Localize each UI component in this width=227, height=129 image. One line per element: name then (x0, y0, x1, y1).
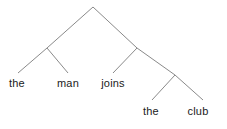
edge-right-phrase-to-lower-right (137, 48, 175, 75)
edge-left-phrase-to-the (18, 48, 47, 73)
leaf-label-the-1: the (9, 77, 25, 89)
leaf-label-joins: joins (101, 77, 125, 89)
leaf-label-man: man (57, 77, 79, 89)
leaf-label-club: club (188, 105, 209, 117)
edge-lower-right-to-the (152, 75, 175, 100)
edge-root-to-left-phrase (47, 7, 93, 48)
edge-left-phrase-to-man (47, 48, 68, 73)
edge-lower-right-to-club (175, 75, 203, 100)
leaf-label-the-2: the (143, 105, 159, 117)
edge-root-to-right-phrase (93, 7, 137, 48)
edge-right-phrase-to-joins (113, 48, 137, 73)
parse-tree-figure: the man joins the club (0, 0, 227, 129)
